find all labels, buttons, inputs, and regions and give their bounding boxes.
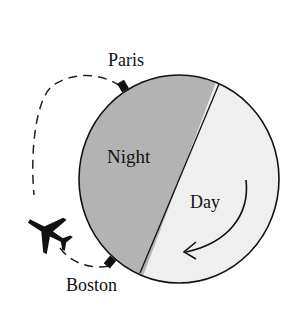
day-label: Day xyxy=(190,192,220,212)
airplane-icon xyxy=(19,204,79,262)
night-label: Night xyxy=(107,146,151,167)
day-night-diagram: Paris Boston Night Day xyxy=(0,0,297,310)
paris-label: Paris xyxy=(108,50,144,70)
boston-label: Boston xyxy=(66,275,117,295)
